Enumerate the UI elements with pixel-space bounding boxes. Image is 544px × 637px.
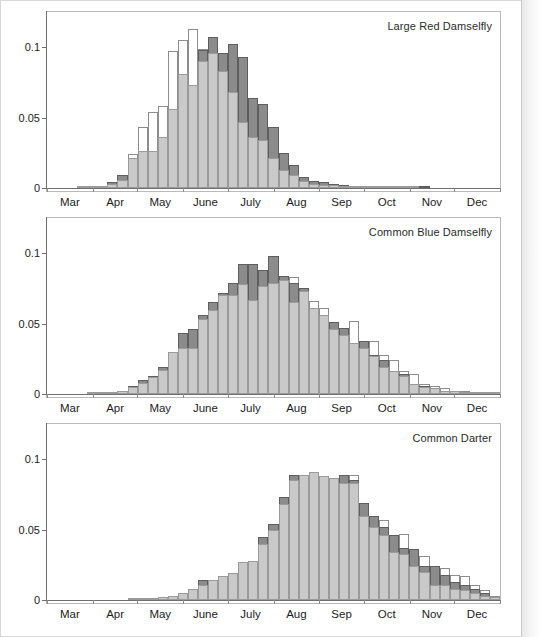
histogram-bin (409, 218, 419, 394)
x-axis-tick (319, 394, 320, 398)
histogram-bin (67, 12, 77, 188)
histogram-bar-light-gray (148, 377, 158, 394)
histogram-bar-light-gray (389, 552, 399, 600)
histogram-bin (97, 218, 107, 394)
x-axis-tick (274, 394, 275, 398)
histogram-bin (148, 424, 158, 600)
histogram-bin (409, 424, 419, 600)
x-axis-label-mar: Mar (60, 608, 80, 620)
histogram-bar-light-gray (389, 371, 399, 394)
x-axis-label-oct: Oct (378, 402, 396, 414)
histogram-bar-light-gray (419, 572, 429, 600)
histogram-bar-light-gray (319, 476, 329, 600)
histogram-bar-light-gray (138, 383, 148, 394)
histogram-bin (460, 424, 470, 600)
histogram-bin (47, 424, 57, 600)
histogram-bin (117, 12, 127, 188)
histogram-bar-light-gray (369, 527, 379, 600)
histogram-bin (299, 12, 309, 188)
histogram-bar-light-gray (168, 352, 178, 394)
histogram-bin (450, 218, 460, 394)
chart-panel-common-darter: Common Darter00.050.1MarAprMayJuneJulyAu… (13, 419, 513, 631)
histogram-bar-light-gray (178, 348, 188, 394)
x-axis-tick (500, 188, 501, 192)
x-axis-tick (93, 188, 94, 192)
histogram-bin (158, 424, 168, 600)
histogram-bar-light-gray (440, 585, 450, 600)
histogram-bar-light-gray (409, 186, 419, 188)
histogram-bar-light-gray (268, 158, 278, 188)
histogram-bin (188, 218, 198, 394)
histogram-bin (389, 218, 399, 394)
histogram-bar-light-gray (409, 384, 419, 394)
histogram-bin (379, 12, 389, 188)
histogram-bar-light-gray (359, 348, 369, 394)
histogram-bar-dark-gray (419, 186, 429, 188)
histogram-bin (268, 12, 278, 188)
x-axis-tick (454, 188, 455, 192)
histogram-bar-light-gray (238, 562, 248, 600)
histogram-bar-light-gray (188, 348, 198, 394)
histogram-bin (57, 424, 67, 600)
histogram-bar-light-gray (218, 71, 228, 188)
x-axis-label-apr: Apr (106, 402, 124, 414)
histogram-bar-light-gray (128, 387, 138, 394)
histogram-bar-light-gray (268, 530, 278, 600)
histogram-bar-light-gray (87, 186, 97, 188)
histogram-bin (299, 424, 309, 600)
histogram-bar-light-gray (389, 186, 399, 188)
y-axis-tick (42, 118, 47, 119)
x-axis-label-apr: Apr (106, 196, 124, 208)
histogram-bin (218, 12, 228, 188)
histogram-bin (67, 424, 77, 600)
x-axis-label-june: June (193, 402, 218, 414)
histogram-bin (47, 218, 57, 394)
x-axis-tick (500, 394, 501, 398)
histogram-bin (178, 218, 188, 394)
histogram-bin (248, 12, 258, 188)
y-axis-label: 0 (13, 388, 40, 400)
histogram-bar-light-gray (158, 370, 168, 394)
histogram-bar-light-gray (419, 387, 429, 394)
x-axis-tick (137, 188, 138, 192)
histogram-bar-light-gray (289, 480, 299, 600)
histogram-bar-light-gray (399, 376, 409, 394)
y-axis-tick (42, 459, 47, 460)
histogram-bin (379, 218, 389, 394)
x-axis-label-sep: Sep (331, 196, 351, 208)
histogram-bin (369, 12, 379, 188)
histogram-bar-light-gray (87, 392, 97, 394)
histogram-bar-light-gray (208, 580, 218, 600)
histogram-bin (470, 424, 480, 600)
histogram-bin (480, 424, 490, 600)
histogram-bin (188, 12, 198, 188)
histogram-bar-light-gray (178, 593, 188, 600)
histogram-bin (419, 424, 429, 600)
histogram-bar-light-gray (279, 280, 289, 394)
histogram-bar-light-gray (117, 391, 127, 394)
histogram-bar-light-gray (218, 576, 228, 600)
plot-canvas (47, 218, 500, 394)
histogram-bin (128, 12, 138, 188)
x-axis-label-dec: Dec (467, 196, 487, 208)
histogram-bin (258, 218, 268, 394)
histogram-bar-light-gray (248, 561, 258, 600)
x-axis-label-nov: Nov (422, 196, 442, 208)
histogram-bin (359, 424, 369, 600)
x-axis-label-may: May (149, 608, 171, 620)
histogram-bar-light-gray (379, 367, 389, 394)
histogram-bin (329, 424, 339, 600)
x-axis-label-apr: Apr (106, 608, 124, 620)
histogram-bin (57, 218, 67, 394)
histogram-bin (77, 424, 87, 600)
histogram-bar-light-gray (339, 335, 349, 394)
histogram-bar-light-gray (238, 122, 248, 188)
histogram-bin (349, 424, 359, 600)
histogram-bin (339, 12, 349, 188)
histogram-bar-light-gray (359, 516, 369, 600)
histogram-bar-light-gray (329, 185, 339, 188)
histogram-bar-light-gray (460, 392, 470, 394)
y-axis-tick (42, 253, 47, 254)
histogram-bar-light-gray (349, 186, 359, 188)
histogram-bin (258, 12, 268, 188)
